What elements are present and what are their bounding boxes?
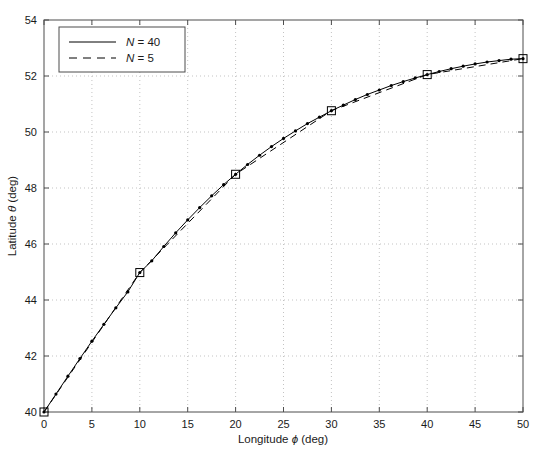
series-marker-dot [378,88,381,91]
x-axis-title: Longitude ϕ (deg) [238,433,328,445]
y-tick-label: 40 [25,406,37,418]
legend[interactable]: N = 40 N = 5 [59,27,185,72]
series-marker-dot [210,194,213,197]
series-marker-dot [282,137,285,140]
y-tick-label: 46 [25,238,37,250]
series-marker-dot [294,129,297,132]
series-marker-dot [198,206,201,209]
x-tick-label: 5 [89,418,95,430]
legend-item-label-n5: N = 5 [126,52,154,64]
series-marker-dot [485,60,488,63]
series-marker-dot [246,163,249,166]
series-marker-dot [390,84,393,87]
legend-item-label-n40: N = 40 [126,36,160,48]
series-marker-dot [258,154,261,157]
x-tick-label: 45 [469,418,481,430]
series-marker-dot [366,93,369,96]
series-marker-dot [462,65,465,68]
series-marker-dot [474,62,477,65]
y-tick-label: 42 [25,350,37,362]
series-marker-dot [354,98,357,101]
x-tick-label: 30 [325,418,337,430]
series-marker-dot [102,323,105,326]
series-marker-dot [497,59,500,62]
x-tick-label: 20 [229,418,241,430]
x-tick-label: 10 [134,418,146,430]
series-marker-dot [509,58,512,61]
x-tick-label: 0 [41,418,47,430]
series-marker-dot [54,392,57,395]
x-tick-label: 15 [182,418,194,430]
y-tick-label: 48 [25,182,37,194]
figure-container: 05101520253035404550 4042444648505254 Lo… [0,0,552,458]
x-tick-label: 50 [517,418,529,430]
series-marker-dot [306,122,309,125]
y-tick-label: 52 [25,70,37,82]
series-marker-dot [270,145,273,148]
x-tick-label: 25 [277,418,289,430]
x-tick-label: 40 [421,418,433,430]
y-tick-label: 50 [25,126,37,138]
series-marker-dot [402,80,405,83]
line-chart: 05101520253035404550 4042444648505254 Lo… [0,0,552,458]
y-axis-title: Latitude θ (deg) [6,176,18,257]
y-tick-label: 54 [25,14,37,26]
series-marker-dot [521,57,524,60]
legend-box [59,27,185,72]
y-tick-label: 44 [25,294,37,306]
series-marker-dot [450,67,453,70]
series-marker-dot [186,218,189,221]
x-tick-label: 35 [373,418,385,430]
